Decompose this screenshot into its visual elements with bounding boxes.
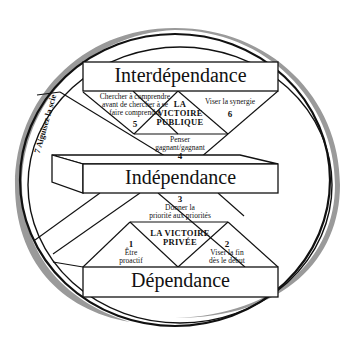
level-interdependance: Interdépendance: [83, 65, 278, 86]
habit-2: 2 Viser la fin dès le début: [200, 240, 254, 265]
habit-6: Viser la synergie 6: [195, 98, 265, 119]
level-independance: Indépendance: [83, 167, 278, 188]
habit-1: 1 Être proactif: [108, 240, 154, 265]
habit-4: Penser gagnant/gagnant 4: [140, 136, 220, 161]
level-dependance: Dépendance: [83, 270, 278, 291]
habit-3: 3 Donner la priorité aux priorités: [130, 195, 230, 220]
habit-5: Chercher à comprendre avant de chercher …: [96, 93, 174, 129]
